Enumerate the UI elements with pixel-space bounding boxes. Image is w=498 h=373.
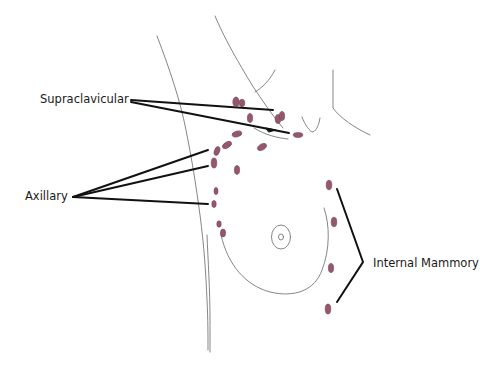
lymph-node — [213, 146, 221, 156]
axillary-leader-1 — [73, 150, 208, 197]
lymph-node — [256, 142, 268, 152]
lymph-node — [211, 158, 217, 168]
internal-mammory-bracket — [337, 189, 363, 302]
lymph-node — [220, 229, 225, 237]
internal-mammory-label: Internal Mammory — [373, 258, 479, 270]
lymph-node — [217, 221, 221, 227]
torso-side-line — [207, 235, 210, 352]
lymph-node — [212, 200, 216, 207]
lymph-node — [234, 166, 239, 175]
supraclavicular-leader-1 — [131, 100, 273, 110]
lymph-node — [221, 140, 232, 150]
lymph-node — [279, 111, 284, 120]
lymph-node — [239, 99, 245, 107]
areola — [272, 225, 291, 249]
sternal-notch — [302, 117, 320, 132]
neck-tendon — [255, 70, 275, 92]
lymph-node — [325, 304, 331, 314]
lymph-node — [328, 263, 333, 272]
nipple — [279, 234, 284, 240]
supraclavicular-leader-2 — [131, 102, 289, 133]
lymph-node — [293, 133, 303, 138]
axillary-leader-3 — [73, 197, 208, 204]
axillary-label: Axillary — [25, 191, 68, 203]
leader-lines — [73, 100, 363, 302]
supraclavicular-label: Supraclavicular — [40, 94, 129, 106]
breast-contour — [221, 208, 328, 294]
lymph-node — [331, 217, 337, 227]
lymph-node — [247, 114, 252, 123]
lymph-node — [233, 97, 239, 107]
arm-left-outline — [157, 36, 208, 350]
neck-right-outline — [333, 70, 370, 135]
axillary-leader-2 — [73, 166, 208, 197]
lymph-node — [326, 180, 332, 190]
lymph-node — [231, 130, 242, 138]
lymph-node-diagram — [0, 0, 498, 373]
neck-left-outline — [215, 16, 283, 128]
lymph-node — [214, 187, 218, 194]
supraclavicular-arrow-tip — [266, 128, 276, 132]
